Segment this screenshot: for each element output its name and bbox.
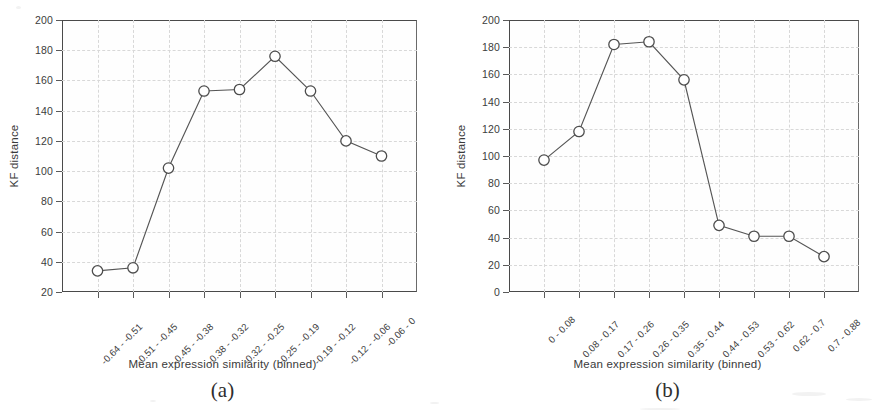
y-axis-tick-label: 0 <box>494 286 500 298</box>
x-axis-tick-label: 0.44 - 0.53 <box>720 319 761 360</box>
x-axis-tick <box>684 292 685 298</box>
x-axis-tick-label: 0.08 - 0.17 <box>580 319 621 360</box>
x-axis-label-b: Mean expression similarity (binned) <box>445 358 890 370</box>
y-axis-tick-label: 60 <box>41 226 53 238</box>
x-axis-tick-label: 0 - 0.08 <box>546 314 577 345</box>
series-a <box>62 20 417 292</box>
y-axis-tick-label: 100 <box>35 165 53 177</box>
data-point-marker <box>305 86 315 96</box>
data-point-marker <box>609 39 619 49</box>
x-axis-tick <box>98 292 99 298</box>
panel-caption-b: (b) <box>445 378 890 403</box>
data-point-marker <box>679 75 689 85</box>
x-axis-tick <box>169 292 170 298</box>
data-point-marker <box>644 37 654 47</box>
x-axis-tick-label: 0.53 - 0.62 <box>755 319 796 360</box>
y-axis-tick-label: 200 <box>35 14 53 26</box>
x-axis-label-a: Mean expression similarity (binned) <box>0 358 445 370</box>
x-axis-tick <box>240 292 241 298</box>
series-b <box>509 20 859 292</box>
x-axis-tick-label: 0.17 - 0.26 <box>615 319 656 360</box>
y-axis-tick-label: 120 <box>35 135 53 147</box>
y-axis-tick-label: 180 <box>482 41 500 53</box>
y-axis-tick-label: 20 <box>41 286 53 298</box>
data-point-marker <box>574 126 584 136</box>
data-point-marker <box>749 231 759 241</box>
data-point-marker <box>92 266 102 276</box>
x-axis-tick-label: 0.7 - 0.88 <box>825 317 862 354</box>
x-axis-tick <box>789 292 790 298</box>
panel-caption-a: (a) <box>0 378 445 403</box>
data-point-marker <box>784 231 794 241</box>
x-axis-tick-label: 0.35 - 0.44 <box>685 319 726 360</box>
y-axis-tick-label: 80 <box>488 177 500 189</box>
y-axis-tick <box>56 292 62 293</box>
y-axis-tick-label: 140 <box>35 105 53 117</box>
x-axis-tick <box>649 292 650 298</box>
x-axis-tick <box>579 292 580 298</box>
x-axis-tick <box>204 292 205 298</box>
panel-a: KF distance 20406080100120140160180200 -… <box>0 0 445 414</box>
y-axis-tick-label: 80 <box>41 195 53 207</box>
x-axis-tick <box>275 292 276 298</box>
y-axis-tick-label: 40 <box>41 256 53 268</box>
y-axis-tick-label: 40 <box>488 232 500 244</box>
x-axis-tick <box>719 292 720 298</box>
plot-area-a: 20406080100120140160180200 -0.64 - -0.51… <box>62 20 417 292</box>
y-axis-tick-label: 20 <box>488 259 500 271</box>
x-axis-tick <box>824 292 825 298</box>
y-axis-tick-label: 160 <box>482 68 500 80</box>
x-axis-tick <box>133 292 134 298</box>
y-axis-tick-label: 160 <box>35 74 53 86</box>
data-point-marker <box>376 151 386 161</box>
panel-b: KF distance 020406080100120140160180200 … <box>445 0 890 414</box>
x-axis-tick <box>614 292 615 298</box>
x-axis-tick <box>311 292 312 298</box>
data-point-marker <box>819 251 829 261</box>
figure-two-panel-line-charts: KF distance 20406080100120140160180200 -… <box>0 0 890 414</box>
data-point-marker <box>199 86 209 96</box>
y-axis-label-a: KF distance <box>8 125 20 188</box>
data-point-marker <box>234 84 244 94</box>
data-point-marker <box>539 155 549 165</box>
x-axis-tick <box>346 292 347 298</box>
data-point-marker <box>163 163 173 173</box>
y-axis-tick-label: 60 <box>488 204 500 216</box>
x-axis-tick-label: 0.62 - 0.7 <box>790 317 827 354</box>
y-axis-tick-label: 120 <box>482 123 500 135</box>
x-axis-tick-label: 0.26 - 0.35 <box>650 319 691 360</box>
y-axis-tick <box>503 292 509 293</box>
data-point-marker <box>270 51 280 61</box>
plot-area-b: 020406080100120140160180200 0 - 0.080.08… <box>509 20 859 292</box>
y-axis-tick-label: 100 <box>482 150 500 162</box>
data-point-marker <box>714 220 724 230</box>
data-point-marker <box>341 136 351 146</box>
y-axis-tick-label: 200 <box>482 14 500 26</box>
y-axis-tick-label: 180 <box>35 44 53 56</box>
data-point-marker <box>128 263 138 273</box>
x-axis-tick <box>382 292 383 298</box>
y-axis-label-b: KF distance <box>455 125 467 188</box>
x-axis-tick <box>544 292 545 298</box>
y-axis-tick-label: 140 <box>482 96 500 108</box>
x-axis-tick <box>754 292 755 298</box>
